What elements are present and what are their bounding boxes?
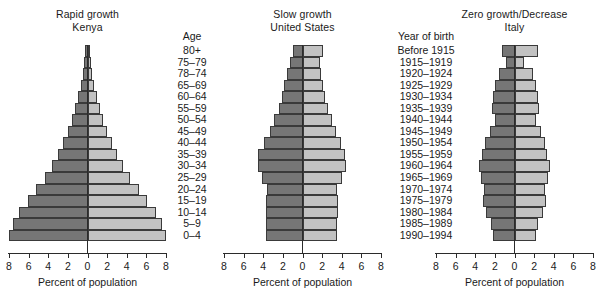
age-column-list: 80+75–7978–7465–6960–6455–5950–5445–4940… <box>168 45 216 241</box>
pyramid-bar-female <box>88 68 93 80</box>
pyramid-bar-male <box>13 218 88 230</box>
pyramid-bar-female <box>303 218 337 230</box>
pyramid-bar-female <box>303 160 346 172</box>
chart-panel-united-states: Slow growth United States Percent of pop… <box>215 0 390 292</box>
pyramid-bar-male <box>258 160 302 172</box>
population-pyramid-figure: Rapid growth Kenya Percent of population… <box>0 0 602 292</box>
pyramid-bar-female <box>303 230 337 242</box>
pyramid-bar-male <box>490 126 515 138</box>
pyramid-bar-male <box>274 114 302 126</box>
pyramid-bar-male <box>45 172 87 184</box>
x-axis-tick <box>495 253 496 258</box>
pyramid-bar-female <box>303 91 326 103</box>
x-axis-tick-label: 8 <box>221 260 227 272</box>
pyramid-bar-female <box>88 126 108 138</box>
x-axis-tick-label: 4 <box>551 260 557 272</box>
pyramid-bar-male <box>36 184 87 196</box>
x-axis-tick-label: 0 <box>300 260 306 272</box>
x-axis-tick <box>48 253 49 258</box>
x-axis-tick <box>554 253 555 258</box>
pyramid-bar-female <box>303 80 324 92</box>
x-axis-tick <box>68 253 69 258</box>
x-axis-tick-label: 6 <box>241 260 247 272</box>
panel-title-line1: Rapid growth <box>56 8 119 20</box>
axis-category-label: 60–64 <box>168 91 216 103</box>
pyramid-bar-male <box>270 126 302 138</box>
x-axis-italy: Percent of population 864202468 <box>427 253 602 292</box>
pyramid-bar-male <box>485 137 514 149</box>
age-column-header: Age <box>168 31 216 43</box>
x-axis-tick-label: 8 <box>590 260 596 272</box>
x-axis-tick <box>361 253 362 258</box>
panel-title-kenya: Rapid growth Kenya <box>0 8 175 34</box>
pyramid-bar-female <box>515 184 545 196</box>
pyramid-bar-female <box>515 126 541 138</box>
x-axis-tick <box>593 253 594 258</box>
x-axis-tick <box>29 253 30 258</box>
x-axis-tick-label: 4 <box>45 260 51 272</box>
x-axis-tick-label: 8 <box>378 260 384 272</box>
pyramid-bar-male <box>266 195 302 207</box>
pyramid-bar-male <box>28 195 88 207</box>
plot-area-italy <box>427 45 602 253</box>
pyramid-bar-female <box>303 45 324 57</box>
pyramid-bar-female <box>88 160 123 172</box>
pyramid-bar-female <box>515 57 525 69</box>
pyramid-bar-male <box>75 103 87 115</box>
pyramid-bar-female <box>515 160 550 172</box>
x-axis-tick <box>475 253 476 258</box>
pyramid-bar-male <box>484 184 514 196</box>
x-axis-tick-label: 6 <box>453 260 459 272</box>
x-axis-tick-label: 4 <box>472 260 478 272</box>
panel-title-line1: Zero growth/Decrease <box>462 8 568 20</box>
pyramid-bar-male <box>19 207 88 219</box>
x-axis-tick <box>127 253 128 258</box>
x-axis-tick-label: 2 <box>280 260 286 272</box>
x-axis-tick <box>381 253 382 258</box>
x-axis-tick <box>322 253 323 258</box>
x-axis-tick-label: 6 <box>26 260 32 272</box>
pyramid-bar-female <box>515 172 548 184</box>
pyramid-bar-male <box>68 126 88 138</box>
pyramid-bar-female <box>515 195 546 207</box>
pyramid-bar-female <box>88 91 97 103</box>
pyramid-bar-female <box>88 80 95 92</box>
pyramid-bar-female <box>303 103 329 115</box>
axis-category-label: 0–4 <box>168 230 216 242</box>
x-axis-kenya: Percent of population 864202468 <box>0 253 175 292</box>
x-axis-tick-label: 4 <box>124 260 130 272</box>
pyramid-bar-female <box>515 103 540 115</box>
panel-title-line2: United States <box>215 21 390 34</box>
x-axis-tick <box>283 253 284 258</box>
axis-category-label: 78–74 <box>168 68 216 80</box>
pyramid-bar-female <box>88 172 130 184</box>
pyramid-bar-female <box>515 218 539 230</box>
x-axis-tick-label: 2 <box>65 260 71 272</box>
x-axis-tick <box>166 253 167 258</box>
pyramid-bar-female <box>88 137 113 149</box>
pyramid-bar-female <box>303 137 341 149</box>
x-axis-tick <box>146 253 147 258</box>
panel-title-line2: Italy <box>427 21 602 34</box>
x-axis-tick-label: 2 <box>492 260 498 272</box>
x-axis-tick <box>263 253 264 258</box>
pyramid-bar-female <box>515 114 537 126</box>
pyramid-bar-female <box>303 68 322 80</box>
x-axis-tick <box>224 253 225 258</box>
pyramid-bar-male <box>287 68 303 80</box>
x-axis-tick <box>436 253 437 258</box>
pyramid-bar-male <box>495 114 515 126</box>
pyramid-bar-male <box>267 184 302 196</box>
x-axis-tick <box>573 253 574 258</box>
pyramid-bar-female <box>303 149 345 161</box>
center-axis-line <box>87 45 88 253</box>
pyramid-bar-male <box>481 172 514 184</box>
center-axis-line <box>514 45 515 253</box>
x-axis-united-states: Percent of population 864202468 <box>215 253 390 292</box>
pyramid-bar-female <box>88 218 163 230</box>
pyramid-bar-female <box>303 184 337 196</box>
x-axis-tick-label: 2 <box>531 260 537 272</box>
center-axis-line <box>302 45 303 253</box>
pyramid-bar-male <box>52 160 87 172</box>
pyramid-bar-female <box>515 45 539 57</box>
